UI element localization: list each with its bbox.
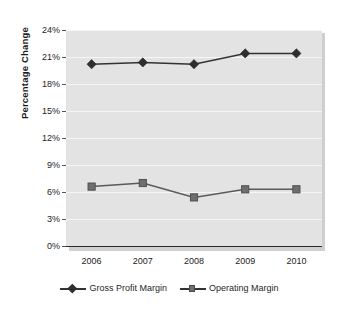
data-point-square-marker (293, 186, 300, 193)
legend-label: Gross Profit Margin (89, 283, 167, 294)
legend-label: Operating Margin (209, 283, 279, 294)
y-axis-tick-label: 6% (18, 187, 60, 197)
square-marker-icon (180, 283, 206, 294)
legend-entry-gross-profit-margin[interactable]: Gross Profit Margin (60, 283, 167, 294)
data-point-diamond-marker (292, 49, 301, 58)
y-axis-tick-label: 3% (18, 214, 60, 224)
x-axis-tick-label: 2007 (121, 256, 165, 266)
diamond-marker-icon (60, 283, 86, 294)
series-layer (66, 30, 322, 246)
data-point-diamond-marker (87, 60, 96, 69)
x-axis-tick-label: 2006 (70, 256, 114, 266)
data-point-diamond-marker (189, 60, 198, 69)
x-axis-tick-label: 2010 (274, 256, 318, 266)
y-axis-tick-label: 9% (18, 160, 60, 170)
chart-legend: Gross Profit Margin Operating Margin (0, 283, 339, 294)
data-point-square-marker (139, 179, 146, 186)
data-point-diamond-marker (138, 58, 147, 67)
data-point-square-marker (190, 194, 197, 201)
legend-entry-operating-margin[interactable]: Operating Margin (180, 283, 279, 294)
y-axis-title: Percentage Change (14, 0, 36, 153)
data-point-diamond-marker (241, 49, 250, 58)
y-axis-tick-label: 0% (18, 241, 60, 251)
x-axis-tick-label: 2009 (223, 256, 267, 266)
data-point-square-marker (88, 183, 95, 190)
x-axis-tick-label: 2008 (172, 256, 216, 266)
data-point-square-marker (242, 186, 249, 193)
line-chart: 0%3%6%9%12%15%18%21%24% 2006200720082009… (0, 0, 339, 309)
